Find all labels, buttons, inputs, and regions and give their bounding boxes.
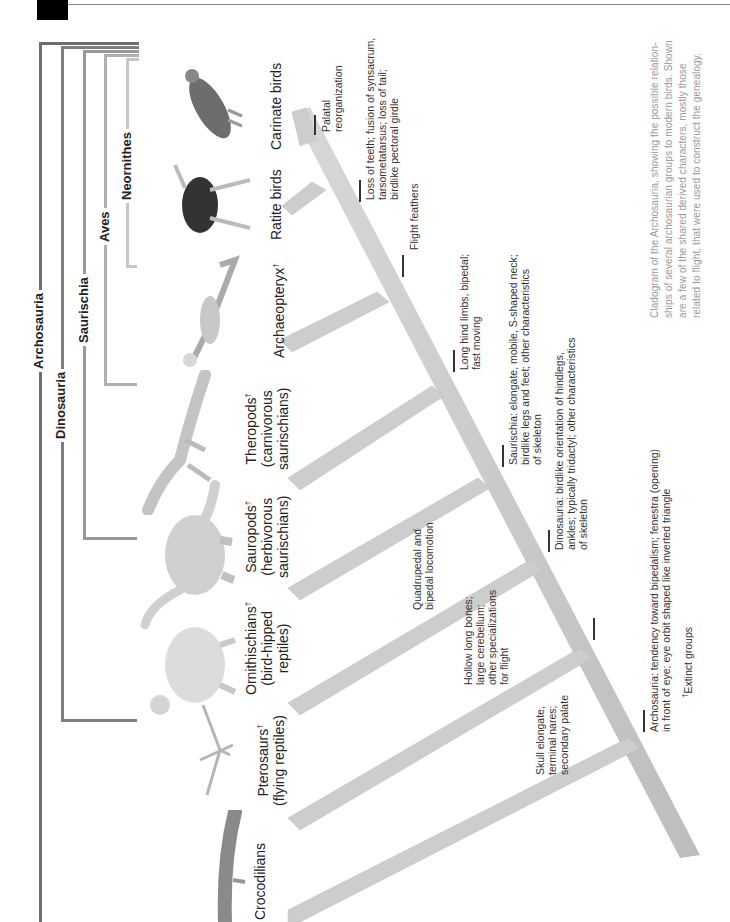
eagle-icon bbox=[170, 60, 250, 155]
taxon-pterosaurs: Pterosaurs† (flying reptiles) bbox=[252, 715, 287, 806]
branch-crocodilians bbox=[288, 738, 640, 922]
branch-theropods bbox=[288, 386, 444, 490]
pterosaur-icon bbox=[195, 700, 235, 800]
char-palatal: Palatal reorganization bbox=[320, 65, 344, 132]
char-saurischia: Saurischia: elongate, mobile, S-shaped n… bbox=[507, 254, 543, 465]
taxon-theropods: Theropods† (carnivorous saurischians) bbox=[240, 388, 291, 470]
figure-caption: Cladogram of the Archosauria, showing th… bbox=[648, 40, 704, 318]
tick-dinosauria bbox=[548, 530, 550, 552]
legend-extinct-groups: †Extinct groups bbox=[679, 627, 694, 698]
tick-flight-feathers bbox=[402, 255, 404, 277]
taxon-ornithischians: Ornithischians† (bird-hipped reptiles) bbox=[240, 602, 291, 695]
branch-archaeopteryx bbox=[280, 292, 389, 352]
taxon-crocodilians: Crocodilians bbox=[252, 843, 268, 920]
taxon-ratite-birds: Ratite birds bbox=[268, 169, 284, 240]
archaeopteryx-icon bbox=[180, 255, 240, 375]
crocodile-icon bbox=[205, 810, 250, 922]
taxon-sauropods: Sauropods† (herbivorous saurischians) bbox=[240, 496, 291, 578]
branch-ratite bbox=[282, 182, 326, 215]
char-flight-feathers: Flight feathers bbox=[408, 183, 420, 250]
tick-saurischia bbox=[502, 445, 504, 467]
char-hollow-bones: Hollow long bones; large cerebellum; oth… bbox=[462, 590, 510, 685]
char-dinosauria: Dinosauria: birdlike orientation of hind… bbox=[553, 338, 589, 550]
char-skull-elongate: Skull elongate, terminal nares; secondar… bbox=[534, 695, 570, 775]
char-archosauria: Archosauria: tendency toward bipedalism;… bbox=[648, 449, 672, 732]
char-long-hind-limbs: Long hind limbs, bipedal; fast moving bbox=[458, 254, 482, 370]
tick-long-hind bbox=[453, 350, 455, 372]
taxon-archaeopteryx: Archaeopteryx† bbox=[268, 263, 287, 358]
char-quadrupedal: Quadrupedal and bipedal locomotion bbox=[411, 522, 435, 610]
taxon-carinate-birds: Carinate birds bbox=[268, 63, 284, 150]
tick-loss-teeth bbox=[359, 180, 361, 202]
char-loss-of-teeth: Loss of teeth; fusion of synsacrum, tars… bbox=[364, 38, 400, 200]
tick-quadrupedal bbox=[593, 618, 595, 640]
ostrich-icon bbox=[170, 160, 255, 250]
tick-palatal bbox=[314, 115, 316, 135]
branch-sauropods bbox=[288, 478, 490, 600]
sauropod-icon bbox=[140, 480, 235, 630]
tree-trunk bbox=[292, 107, 700, 858]
tick-archosauria bbox=[643, 710, 645, 732]
